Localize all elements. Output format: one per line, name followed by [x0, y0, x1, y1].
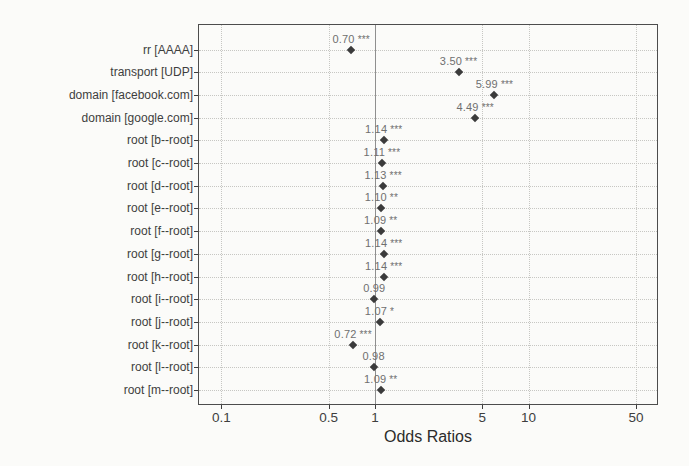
- data-point: [377, 386, 385, 394]
- significance-stars: ***: [387, 238, 402, 249]
- y-gridline: [199, 72, 657, 73]
- y-category-label: root [c--root]: [128, 156, 193, 170]
- y-category-label: rr [AAAA]: [143, 43, 193, 57]
- y-gridline: [199, 140, 657, 141]
- odds-ratio-value: 1.09: [364, 373, 386, 385]
- odds-ratio-value: 0.72: [334, 328, 356, 340]
- data-point: [379, 136, 387, 144]
- y-category-label: root [i--root]: [131, 292, 193, 306]
- x-gridline: [329, 25, 330, 404]
- y-axis-tick: [194, 72, 199, 73]
- y-axis-tick: [194, 390, 199, 391]
- x-axis-tick: [221, 404, 222, 409]
- x-axis-title: Odds Ratios: [384, 428, 472, 446]
- y-gridline: [199, 186, 657, 187]
- odds-ratio-value: 0.99: [363, 282, 385, 294]
- odds-ratio-value: 3.50: [440, 55, 462, 67]
- significance-stars: *: [387, 306, 394, 317]
- value-label: 4.49 ***: [456, 101, 493, 113]
- x-axis-tick: [636, 404, 637, 409]
- y-axis-tick: [194, 95, 199, 96]
- odds-ratio-value: 1.14: [365, 260, 387, 272]
- significance-stars: **: [386, 374, 397, 385]
- x-axis-tick: [529, 404, 530, 409]
- y-axis-tick: [194, 322, 199, 323]
- significance-stars: ***: [387, 170, 402, 181]
- y-gridline: [199, 345, 657, 346]
- y-axis-tick: [194, 163, 199, 164]
- data-point: [471, 113, 479, 121]
- y-category-label: root [l--root]: [131, 360, 193, 374]
- odds-ratio-value: 4.49: [456, 101, 478, 113]
- x-tick-label: 0.1: [212, 410, 231, 425]
- x-axis-tick: [375, 404, 376, 409]
- plot-panel: [198, 24, 658, 405]
- odds-ratio-value: 1.10: [365, 191, 387, 203]
- odds-ratio-value: 1.09: [364, 214, 386, 226]
- y-category-label: root [k--root]: [128, 338, 193, 352]
- data-point: [379, 272, 387, 280]
- data-point: [378, 159, 386, 167]
- value-label: 1.09 **: [364, 214, 397, 226]
- value-label: 1.13 ***: [364, 169, 401, 181]
- y-category-label: root [h--root]: [127, 270, 193, 284]
- value-label: 1.14 ***: [365, 237, 402, 249]
- significance-stars: ***: [479, 102, 494, 113]
- value-label: 0.98: [363, 350, 385, 362]
- data-point: [349, 340, 357, 348]
- value-label: 0.72 ***: [334, 328, 371, 340]
- data-point: [347, 45, 355, 53]
- x-gridline: [221, 25, 222, 404]
- data-point: [369, 363, 377, 371]
- data-point: [379, 250, 387, 258]
- significance-stars: ***: [498, 79, 513, 90]
- value-label: 1.10 **: [365, 191, 398, 203]
- y-gridline: [199, 322, 657, 323]
- value-label: 1.14 ***: [365, 123, 402, 135]
- data-point: [370, 295, 378, 303]
- x-axis-tick: [482, 404, 483, 409]
- y-axis-tick: [194, 208, 199, 209]
- y-category-label: root [m--root]: [124, 383, 193, 397]
- odds-ratio-value: 1.11: [364, 146, 385, 158]
- data-point: [454, 68, 462, 76]
- y-axis-tick: [194, 299, 199, 300]
- x-gridline: [636, 25, 637, 404]
- data-point: [379, 181, 387, 189]
- y-axis-tick: [194, 254, 199, 255]
- y-gridline: [199, 163, 657, 164]
- x-tick-label: 10: [521, 410, 536, 425]
- y-gridline: [199, 277, 657, 278]
- value-label: 1.14 ***: [365, 260, 402, 272]
- data-point: [490, 91, 498, 99]
- y-axis-tick: [194, 231, 199, 232]
- y-category-label: root [e--root]: [127, 201, 193, 215]
- y-axis-tick: [194, 367, 199, 368]
- x-axis-tick: [329, 404, 330, 409]
- y-category-label: root [g--root]: [127, 247, 193, 261]
- y-gridline: [199, 95, 657, 96]
- y-category-label: domain [google.com]: [82, 111, 193, 125]
- y-axis-tick: [194, 345, 199, 346]
- odds-ratio-value: 0.70: [332, 33, 354, 45]
- odds-ratio-value: 1.14: [365, 237, 387, 249]
- odds-ratios-forest-plot: 0.10.5151050rr [AAAA]transport [UDP]doma…: [0, 0, 689, 466]
- y-axis-tick: [194, 118, 199, 119]
- y-category-label: transport [UDP]: [110, 65, 193, 79]
- data-point: [377, 204, 385, 212]
- value-label: 0.99: [363, 282, 385, 294]
- odds-ratio-value: 0.98: [363, 350, 385, 362]
- y-gridline: [199, 299, 657, 300]
- y-category-label: root [f--root]: [130, 224, 193, 238]
- value-label: 3.50 ***: [440, 55, 477, 67]
- y-gridline: [199, 208, 657, 209]
- significance-stars: **: [387, 192, 398, 203]
- significance-stars: ***: [385, 147, 400, 158]
- odds-ratio-value: 5.99: [476, 78, 498, 90]
- significance-stars: **: [386, 215, 397, 226]
- x-tick-label: 1: [371, 410, 379, 425]
- y-category-label: root [j--root]: [131, 315, 193, 329]
- data-point: [377, 227, 385, 235]
- value-label: 1.09 **: [364, 373, 397, 385]
- y-category-label: domain [facebook.com]: [69, 88, 193, 102]
